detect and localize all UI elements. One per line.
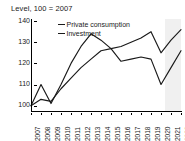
x-tick-label: 2008	[44, 127, 51, 141]
x-tick-label: 2011	[74, 127, 81, 141]
chart-container: Level, 100 = 2007 100110120130140 200720…	[0, 0, 185, 141]
x-tick-mark	[31, 113, 32, 115]
y-axis-line	[31, 19, 32, 112]
chart-legend: Private consumption Investment	[58, 20, 130, 38]
line-private-consumption	[31, 30, 181, 106]
x-tick-mark	[101, 113, 102, 115]
x-tick-mark	[41, 113, 42, 115]
legend-label: Investment	[67, 29, 101, 38]
x-tick-mark	[181, 113, 182, 115]
x-axis-labels: 2007200820092010201120122013201420152016…	[31, 113, 182, 141]
x-tick-mark	[151, 113, 152, 115]
x-tick-label: 2022	[184, 127, 185, 141]
x-tick-label: 2012	[84, 127, 91, 141]
y-axis-labels: 100110120130140	[6, 0, 30, 141]
x-tick-label: 2015	[114, 127, 121, 141]
x-tick-mark	[81, 113, 82, 115]
x-tick-label: 2014	[104, 127, 111, 141]
x-axis-line	[31, 111, 182, 112]
y-tick-label: 130	[10, 38, 30, 45]
x-tick-label: 2013	[94, 127, 101, 141]
legend-swatch-icon	[58, 24, 65, 26]
x-tick-label: 2020	[164, 127, 171, 141]
x-tick-mark	[131, 113, 132, 115]
x-tick-mark	[61, 113, 62, 115]
line-investment	[31, 34, 181, 106]
x-tick-label: 2019	[154, 127, 161, 141]
legend-item-private-consumption: Private consumption	[58, 20, 130, 29]
x-tick-label: 2009	[54, 127, 61, 141]
x-tick-label: 2017	[134, 127, 141, 141]
legend-label: Private consumption	[67, 20, 130, 29]
x-tick-mark	[171, 113, 172, 115]
x-tick-mark	[141, 113, 142, 115]
y-tick-mark	[34, 85, 37, 86]
x-tick-label: 2007	[34, 127, 41, 141]
y-tick-mark	[34, 63, 37, 64]
y-tick-label: 120	[10, 59, 30, 66]
y-tick-label: 140	[10, 17, 30, 24]
legend-swatch-icon	[58, 33, 65, 35]
y-tick-mark	[34, 106, 37, 107]
x-tick-mark	[121, 113, 122, 115]
y-tick-label: 100	[10, 101, 30, 108]
x-tick-mark	[91, 113, 92, 115]
x-tick-label: 2010	[64, 127, 71, 141]
x-tick-mark	[71, 113, 72, 115]
x-tick-mark	[161, 113, 162, 115]
y-tick-label: 110	[10, 80, 30, 87]
x-tick-label: 2018	[144, 127, 151, 141]
y-tick-mark	[34, 21, 37, 22]
x-tick-label: 2021	[174, 127, 181, 141]
legend-item-investment: Investment	[58, 29, 130, 38]
x-tick-mark	[51, 113, 52, 115]
x-tick-label: 2016	[124, 127, 131, 141]
y-tick-mark	[34, 42, 37, 43]
x-tick-mark	[111, 113, 112, 115]
